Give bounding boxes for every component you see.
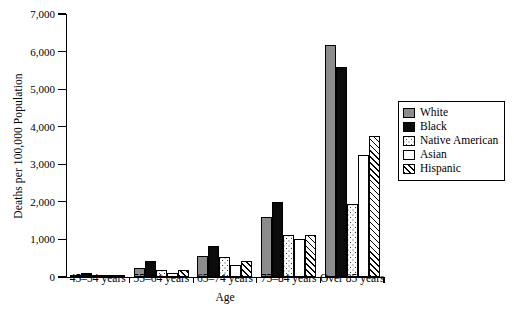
legend-swatch-icon	[403, 108, 415, 118]
x-axis-tick	[256, 277, 257, 283]
y-axis-tick-label: 2,000	[30, 196, 55, 208]
y-axis-tick: 7,000	[58, 13, 66, 14]
legend-item[interactable]: Asian	[403, 148, 498, 162]
y-axis-tick: 1,000	[58, 239, 66, 240]
bar	[336, 67, 347, 277]
bar	[305, 235, 316, 277]
y-axis-tick-label: 3,000	[30, 158, 55, 170]
bar	[283, 235, 294, 277]
bar-group	[193, 14, 257, 277]
bar	[358, 155, 369, 277]
x-axis-category-label: 45–54 years	[70, 272, 126, 284]
legend-label: Black	[420, 121, 447, 133]
legend-swatch-icon	[403, 164, 415, 174]
bar	[272, 202, 283, 277]
y-axis-tick-label: 6,000	[30, 46, 55, 58]
y-axis-tick-label: 1,000	[30, 233, 55, 245]
y-axis-tick-label: 7,000	[30, 8, 55, 20]
legend-swatch-icon	[403, 136, 415, 146]
y-axis-title: Deaths per 100,000 Population	[12, 46, 24, 246]
x-axis-tick	[129, 277, 130, 283]
legend-label: White	[420, 107, 448, 119]
y-axis-tick: 4,000	[58, 126, 66, 127]
x-axis-category-label: 75–84 years	[261, 272, 317, 284]
y-axis-tick: 2,000	[58, 201, 66, 202]
bar-group	[320, 14, 384, 277]
x-axis-category-label: Over 85 years	[320, 272, 385, 284]
legend-swatch-icon	[403, 122, 415, 132]
x-axis-tick	[193, 277, 194, 283]
plot-area: 01,0002,0003,0004,0005,0006,0007,000	[66, 14, 384, 277]
legend-swatch-icon	[403, 150, 415, 160]
bar-group	[257, 14, 321, 277]
bar	[369, 136, 380, 277]
legend-item[interactable]: Hispanic	[403, 162, 498, 176]
bar-group	[66, 14, 130, 277]
bar	[325, 45, 336, 277]
legend-label: Native American	[420, 135, 498, 147]
y-axis-tick: 6,000	[58, 51, 66, 52]
legend-label: Hispanic	[420, 163, 461, 175]
legend-item[interactable]: Native American	[403, 134, 498, 148]
y-axis-tick: 0	[58, 276, 66, 277]
bar	[347, 204, 358, 277]
bar	[261, 217, 272, 277]
x-axis-category-label: 65–74 years	[197, 272, 253, 284]
y-axis-tick: 3,000	[58, 164, 66, 165]
y-axis-tick-label: 0	[50, 271, 56, 283]
bar-chart: Deaths per 100,000 Population 01,0002,00…	[0, 0, 514, 320]
bar-group	[130, 14, 194, 277]
y-axis-tick-label: 5,000	[30, 83, 55, 95]
legend-label: Asian	[420, 149, 447, 161]
legend-item[interactable]: Black	[403, 120, 498, 134]
legend-item[interactable]: White	[403, 106, 498, 120]
y-axis-tick: 5,000	[58, 89, 66, 90]
x-axis-category-label: 55–64 years	[133, 272, 189, 284]
x-axis-title: Age	[66, 291, 384, 303]
chart-legend: WhiteBlackNative AmericanAsianHispanic	[398, 101, 505, 181]
y-axis-tick-label: 4,000	[30, 121, 55, 133]
